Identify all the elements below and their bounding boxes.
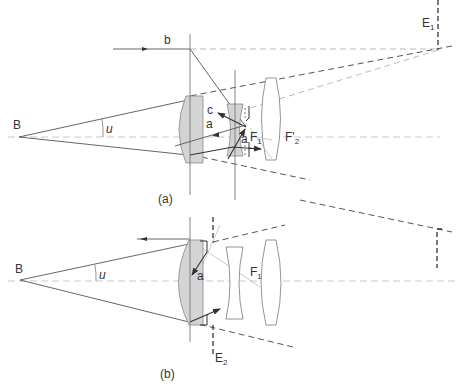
- caption-b: (b): [160, 367, 175, 381]
- label-focal-f1-a: F1: [250, 130, 262, 146]
- dashed-upper-marginal-b: [213, 225, 285, 242]
- dashed-lower-marginal-continue: [300, 200, 452, 232]
- label-pupil-e1: E1: [422, 16, 435, 32]
- ray-lower-from-b-b: [20, 280, 189, 322]
- label-u-angle-a: u: [106, 122, 113, 136]
- ray-b-arrow-icon: [142, 47, 148, 51]
- dashed-lower-marginal-a: [192, 155, 310, 180]
- label-u-angle-b: u: [99, 268, 106, 282]
- dashed-lower-marginal-b: [190, 322, 293, 347]
- label-focal-f1-b: F1: [250, 265, 262, 281]
- dashed-upper-marginal-a: [190, 46, 452, 96]
- label-b-object-a: B: [13, 118, 21, 132]
- label-b-object-b: B: [15, 262, 23, 276]
- label-focal-f2-a: F'2: [285, 130, 300, 146]
- pupil-right-stop-b: [437, 229, 442, 268]
- label-ray-c: c: [207, 103, 213, 117]
- label-ray-b: b: [164, 33, 171, 47]
- lens-2-b: [226, 247, 243, 319]
- ray-lower-from-b: [19, 137, 188, 155]
- label-ray-a1: a: [206, 117, 213, 131]
- panel-a: B u b c a a F1 F'2 E1 (a): [8, 0, 452, 206]
- angle-u-arc: [102, 119, 103, 137]
- ray-top-arrow-icon-b: [140, 237, 147, 241]
- panel-b: B u a F1 E2 (b): [8, 200, 455, 381]
- label-ray-a-b: a: [197, 269, 204, 283]
- caption-a: (a): [158, 192, 173, 206]
- optical-diagram: B u b c a a F1 F'2 E1 (a): [0, 0, 461, 390]
- angle-u-arc-b: [95, 265, 96, 281]
- stop-bracket-upper-a: [246, 106, 249, 121]
- label-ray-a2: a: [241, 132, 248, 146]
- lens-3-b: [261, 240, 281, 325]
- label-pupil-e2: E2: [215, 351, 228, 367]
